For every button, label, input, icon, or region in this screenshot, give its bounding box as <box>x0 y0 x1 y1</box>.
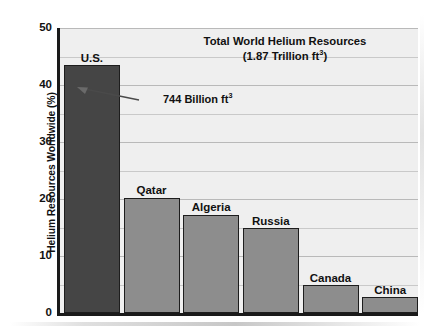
bottom-edge-shadow <box>10 322 420 326</box>
bar-algeria: Algeria <box>183 215 239 313</box>
callout-label: 744 Billion ft3 <box>163 94 232 105</box>
chart-title-line1: Total World Helium Resources <box>204 35 367 47</box>
y-tick-30: 30 <box>24 136 52 148</box>
y-axis-tick-labels: 50 40 30 20 10 0 <box>22 0 52 332</box>
bar-label-canada: Canada <box>310 273 352 285</box>
chart-subtitle-prefix: (1.87 Trillion ft <box>243 50 320 62</box>
bar-canada: Canada <box>303 285 359 313</box>
bar-series: U.S.QatarAlgeriaRussiaCanadaChina <box>60 28 418 313</box>
callout-text: 744 Billion ft <box>163 93 228 105</box>
bar-china: China <box>362 297 418 313</box>
bar-label-u-s: U.S. <box>81 53 103 65</box>
chart-title-line2: (1.87 Trillion ft3) <box>160 49 410 64</box>
bar-label-algeria: Algeria <box>192 202 231 214</box>
bar-label-qatar: Qatar <box>136 185 166 197</box>
callout-exponent: 3 <box>228 91 232 100</box>
bar-label-china: China <box>374 285 406 297</box>
bar-qatar: Qatar <box>124 198 180 313</box>
right-edge-shadow <box>420 14 424 314</box>
bar-label-russia: Russia <box>252 216 290 228</box>
y-tick-20: 20 <box>24 193 52 205</box>
y-tick-10: 10 <box>24 250 52 262</box>
y-tick-0: 0 <box>24 307 52 319</box>
bar-russia: Russia <box>243 228 299 313</box>
plot-area: U.S.QatarAlgeriaRussiaCanadaChina Total … <box>57 28 418 316</box>
helium-resources-bar-chart: Helium Resources Worldwide (%) 50 40 30 … <box>0 0 426 332</box>
y-tick-50: 50 <box>24 22 52 34</box>
chart-title: Total World Helium Resources (1.87 Trill… <box>160 34 410 65</box>
chart-subtitle-suffix: ) <box>323 50 327 62</box>
callout-arrow-icon <box>77 86 141 106</box>
y-tick-40: 40 <box>24 79 52 91</box>
